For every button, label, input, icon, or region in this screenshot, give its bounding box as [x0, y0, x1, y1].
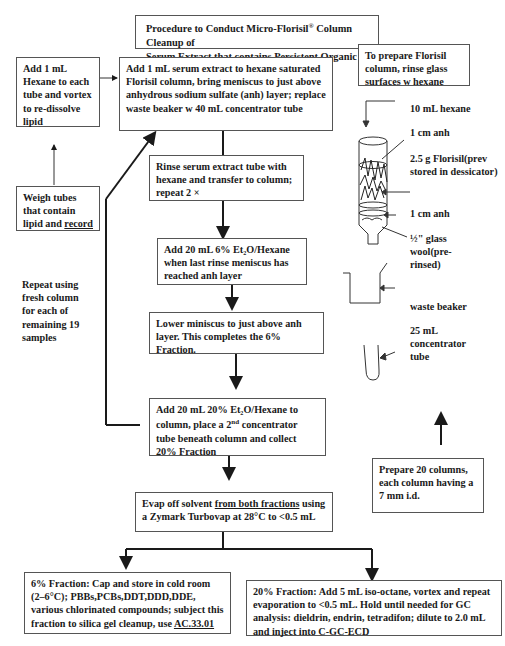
label-hexane: 10 mL hexane: [410, 102, 471, 115]
step-weigh-tubes: Weigh tubes that contain lipid and recor…: [16, 186, 100, 231]
ac-33-01-link[interactable]: AC.33.01: [174, 618, 214, 629]
repeat-note: Repeat using fresh column for each of re…: [22, 278, 92, 344]
step-add-serum: Add 1 mL serum extract to hexane saturat…: [119, 57, 333, 131]
label-waste-beaker: waste beaker: [410, 300, 467, 313]
fraction-20pct-box: 20% Fraction: Add 5 mL iso-octane, vorte…: [246, 580, 502, 636]
title-box: Procedure to Conduct Micro-Florisil® Col…: [135, 15, 379, 49]
step-add-6pct: Add 20 mL 6% Et₂O/Hexane when last rinse…: [157, 238, 307, 285]
prepare-columns-box: Prepare 20 columns, each column having a…: [372, 458, 484, 513]
label-anh-top: 1 cm anh: [410, 126, 450, 139]
label-anh-bottom: 1 cm anh: [410, 207, 450, 220]
step-add-hexane: Add 1 mL Hexane to each tube and vortex …: [16, 57, 100, 127]
step-rinse: Rinse serum extract tube with hexane and…: [149, 155, 304, 201]
label-florisil: 2.5 g Florisil(prev stored in dessicator…: [410, 152, 500, 178]
florisil-column-icon: [343, 101, 410, 380]
step-evaporate: Evap off solvent from both fractions usi…: [135, 492, 333, 532]
step-lower-meniscus: Lower miniscus to just above anh layer. …: [149, 312, 324, 354]
label-concentrator: 25 mL concentrator tube: [410, 324, 480, 364]
record-link[interactable]: record: [64, 218, 93, 229]
prep-florisil-box: To prepare Florisil column, rinse glass …: [358, 44, 470, 86]
step-add-20pct: Add 20 mL 20% Et₂O/Hexane to column, pla…: [149, 398, 326, 456]
label-glass-wool: ½" glass wool(pre-rinsed): [410, 232, 480, 272]
fraction-6pct-box: 6% Fraction: Cap and store in cold room …: [24, 572, 231, 634]
